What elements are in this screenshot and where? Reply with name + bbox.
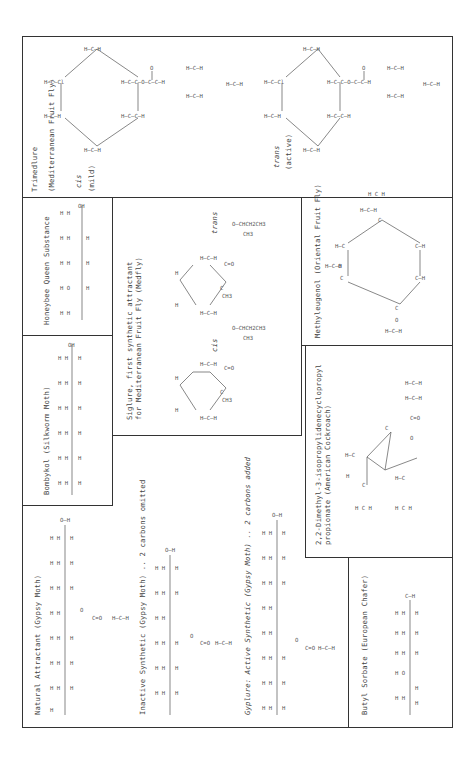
- svg-text:H H: H H: [58, 430, 68, 436]
- svg-text:H C H: H C H: [395, 505, 412, 511]
- svg-text:H–C–H: H–C–H: [215, 640, 232, 646]
- svg-text:H–C–H: H–C–H: [84, 147, 101, 153]
- svg-text:O–CHCH2CH3: O–CHCH2CH3: [232, 221, 266, 227]
- svg-text:C=O: C=O: [410, 415, 421, 421]
- svg-text:H: H: [86, 235, 89, 241]
- svg-text:H: H: [70, 685, 73, 691]
- svg-text:H: H: [175, 590, 178, 596]
- svg-text:H O: H O: [60, 285, 71, 291]
- svg-text:O: O: [295, 637, 299, 643]
- natural-attractant-structure: H HH HH H H HH HH H H HH HHH HHH O–H OC=…: [50, 517, 129, 715]
- svg-text:H H: H H: [50, 585, 60, 591]
- svg-text:CH3: CH3: [243, 231, 253, 237]
- svg-text:H–C–H: H–C–H: [303, 46, 320, 52]
- svg-text:H H: H H: [262, 680, 272, 686]
- svg-text:H: H: [78, 380, 81, 386]
- svg-text:O: O: [190, 633, 194, 639]
- svg-text:H H: H H: [50, 610, 60, 616]
- svg-text:H: H: [86, 260, 89, 266]
- svg-text:H–C: H–C: [335, 243, 345, 249]
- methyleugenol-structure: CH–C–H H C H H–CC–H CC–H OH–C–H CO H–C–H: [325, 191, 425, 334]
- svg-text:H–C–H: H–C–H: [264, 113, 281, 119]
- svg-text:H H: H H: [262, 530, 272, 536]
- svg-text:H–C–H: H–C–H: [226, 81, 243, 87]
- svg-text:H: H: [50, 707, 53, 713]
- svg-text:H–C–H: H–C–H: [112, 615, 129, 621]
- siglure-trans-structure: HH H–C–HH–C–H CCH3 C=OO–CHCH2CH3 CH3: [175, 221, 266, 316]
- gyplure-structure: H HH HH H H HH HH H H HH H HHH HHH O–H O…: [262, 512, 335, 715]
- svg-text:H H: H H: [50, 635, 60, 641]
- svg-text:O: O: [150, 65, 154, 71]
- svg-text:H H: H H: [395, 695, 405, 701]
- svg-text:H–C–H: H–C–H: [186, 93, 203, 99]
- svg-text:H–C–H: H–C–H: [84, 46, 101, 52]
- svg-text:H: H: [282, 580, 285, 586]
- svg-text:H H: H H: [58, 355, 68, 361]
- svg-text:H–C–H: H–C–H: [200, 361, 217, 367]
- svg-text:H–C–Cl: H–C–Cl: [264, 79, 284, 85]
- svg-text:H: H: [70, 585, 73, 591]
- svg-text:H: H: [175, 302, 178, 308]
- svg-text:C: C: [220, 389, 223, 395]
- svg-text:H H: H H: [60, 310, 70, 316]
- svg-text:H H: H H: [262, 705, 272, 711]
- svg-text:H H: H H: [155, 665, 165, 671]
- svg-text:C: C: [385, 425, 388, 431]
- svg-text:H: H: [78, 480, 81, 486]
- svg-text:H H: H H: [262, 630, 272, 636]
- svg-text:H–C–H: H–C–H: [325, 263, 342, 269]
- svg-text:H: H: [78, 405, 81, 411]
- svg-text:O–H: O–H: [165, 547, 175, 553]
- svg-text:C–H: C–H: [415, 275, 425, 281]
- svg-text:H H: H H: [58, 380, 68, 386]
- svg-text:H: H: [70, 635, 73, 641]
- svg-text:H: H: [70, 535, 73, 541]
- svg-text:H–C–H: H–C–H: [385, 328, 402, 334]
- bombykol-structure: H HH HH H H HH HH H HHH HHH OH: [58, 342, 81, 495]
- svg-text:H–C–H: H–C–H: [44, 113, 61, 119]
- svg-text:C: C: [362, 482, 365, 488]
- svg-text:H–C–H: H–C–H: [186, 65, 203, 71]
- svg-text:H: H: [282, 655, 285, 661]
- svg-text:H: H: [175, 690, 178, 696]
- svg-text:O–H: O–H: [60, 517, 70, 523]
- svg-text:H: H: [415, 650, 418, 656]
- svg-text:CH3: CH3: [243, 335, 253, 341]
- svg-text:OH: OH: [78, 203, 85, 209]
- svg-text:H H: H H: [262, 555, 272, 561]
- svg-text:H–C–H: H–C–H: [405, 395, 422, 401]
- svg-text:H O: H O: [395, 670, 406, 676]
- svg-text:O: O: [395, 317, 399, 323]
- svg-text:H–C–H: H–C–H: [200, 255, 217, 261]
- svg-text:H: H: [415, 610, 418, 616]
- svg-text:H–C–H: H–C–H: [200, 415, 217, 421]
- dimethyl-structure: HH–CC H–CC OC=O H–C–HH–C–H H C HH C H: [345, 380, 422, 511]
- svg-text:H H: H H: [155, 590, 165, 596]
- svg-text:H–C–H: H–C–H: [405, 380, 422, 386]
- svg-text:H H: H H: [395, 610, 405, 616]
- svg-text:C: C: [220, 285, 223, 291]
- svg-text:H: H: [346, 473, 349, 479]
- svg-text:C–H: C–H: [405, 593, 415, 599]
- svg-text:H–C–H: H–C–H: [200, 310, 217, 316]
- svg-text:H H: H H: [58, 405, 68, 411]
- svg-text:H–C–C–H: H–C–C–H: [327, 113, 351, 119]
- svg-text:H–C–H: H–C–H: [387, 65, 404, 71]
- svg-text:H: H: [78, 430, 81, 436]
- svg-text:H H: H H: [262, 605, 272, 611]
- svg-text:H–C–H: H–C–H: [387, 93, 404, 99]
- svg-text:H H: H H: [50, 685, 60, 691]
- svg-text:H: H: [86, 285, 89, 291]
- svg-text:H H: H H: [50, 535, 60, 541]
- structural-formulas: H–C–HH–C–Cl H–C–HH–C–H H–C–C–O–C–C–HH–C–…: [0, 0, 475, 758]
- svg-text:H: H: [175, 270, 178, 276]
- svg-text:C: C: [378, 217, 381, 223]
- svg-text:H: H: [175, 565, 178, 571]
- svg-text:H H: H H: [155, 690, 165, 696]
- svg-text:H: H: [282, 705, 285, 711]
- trimedlure-trans-structure: H–C–HH–C–Cl H–C–HH–C–H H–C–C–O–C–C–HH–C–…: [264, 46, 440, 153]
- svg-text:C=O: C=O: [305, 645, 316, 651]
- svg-text:H H: H H: [60, 235, 70, 241]
- svg-text:H–C–H: H–C–H: [318, 645, 335, 651]
- svg-text:H H: H H: [155, 615, 165, 621]
